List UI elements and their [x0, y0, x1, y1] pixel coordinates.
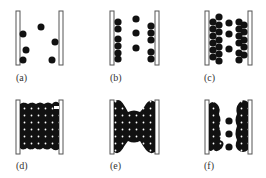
- particles: [114, 15, 154, 62]
- pore-filling-diagram: [0, 0, 266, 178]
- left-wall: [110, 100, 114, 154]
- panel-e: [110, 100, 159, 154]
- panel-a: [16, 11, 63, 65]
- panel-c: [205, 11, 252, 65]
- panel-label-c: (c): [204, 72, 215, 83]
- right-wall: [59, 11, 63, 65]
- right-wall: [155, 11, 159, 65]
- panel-b: [110, 11, 159, 65]
- left-wall: [205, 11, 209, 65]
- particles: [209, 100, 248, 152]
- right-wall: [155, 100, 159, 154]
- particles-hourglass: [114, 100, 155, 153]
- right-wall: [248, 100, 252, 154]
- particles-dense: [20, 102, 59, 151]
- panel-label-a: (a): [16, 72, 27, 83]
- left-wall: [205, 100, 209, 154]
- panel-label-b: (b): [110, 72, 122, 83]
- left-wall: [110, 11, 114, 65]
- panel-f: [205, 100, 252, 154]
- particles: [209, 13, 247, 64]
- right-wall: [248, 11, 252, 65]
- left-wall: [16, 100, 20, 154]
- particles: [20, 24, 59, 64]
- panel-d: [16, 100, 63, 154]
- right-wall: [59, 100, 63, 154]
- left-wall: [16, 11, 20, 65]
- panel-label-d: (d): [16, 160, 28, 171]
- panel-label-e: (e): [110, 160, 121, 171]
- panel-label-f: (f): [204, 160, 214, 171]
